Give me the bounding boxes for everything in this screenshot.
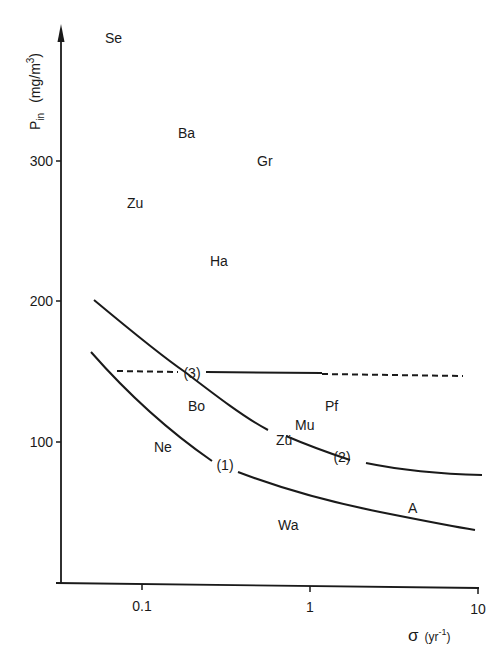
x-tick-0.1: 0.1 bbox=[132, 598, 152, 614]
point-pf: Pf bbox=[325, 398, 338, 414]
y-tick-300: 300 bbox=[30, 153, 54, 169]
point-zue: Zü bbox=[276, 432, 292, 448]
point-zu: Zu bbox=[127, 195, 143, 211]
curve-label-1: (1) bbox=[216, 457, 233, 473]
x-tick-1: 1 bbox=[306, 599, 314, 615]
point-mu: Mu bbox=[295, 417, 314, 433]
point-ba: Ba bbox=[178, 125, 195, 141]
point-se: Se bbox=[105, 30, 122, 46]
y-tick-200: 200 bbox=[30, 293, 54, 309]
point-wa: Wa bbox=[278, 517, 299, 533]
curve-3 bbox=[117, 371, 463, 376]
point-gr: Gr bbox=[257, 153, 273, 169]
point-a: A bbox=[408, 500, 418, 516]
curve-label-3: (3) bbox=[183, 365, 200, 381]
point-ne: Ne bbox=[154, 439, 172, 455]
x-axis: 0.1 1 10 σ(yr-1) bbox=[56, 583, 486, 645]
svg-text:Pin(mg/m3): Pin(mg/m3) bbox=[25, 53, 46, 130]
y-axis: 300 200 100 Pin(mg/m3) bbox=[25, 24, 65, 583]
point-bo: Bo bbox=[188, 398, 205, 414]
point-ha: Ha bbox=[210, 253, 228, 269]
y-tick-100: 100 bbox=[30, 434, 54, 450]
y-axis-label: Pin(mg/m3) bbox=[25, 53, 46, 130]
x-axis-label: σ(yr-1) bbox=[408, 626, 451, 645]
x-tick-10: 10 bbox=[470, 601, 486, 617]
phosphorus-loading-chart: 300 200 100 Pin(mg/m3) 0.1 1 10 σ(yr-1) … bbox=[0, 0, 501, 669]
y-axis-arrow-icon bbox=[58, 24, 65, 42]
curve-2 bbox=[94, 300, 482, 475]
curve-label-2: (2) bbox=[333, 449, 350, 465]
